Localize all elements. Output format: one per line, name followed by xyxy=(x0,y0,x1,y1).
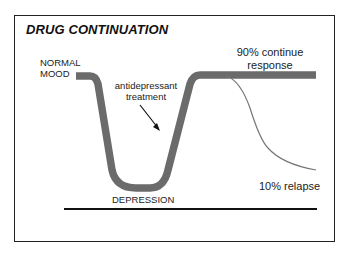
relapse-curve xyxy=(226,76,316,170)
diagram-graphics xyxy=(0,0,351,255)
mood-curve xyxy=(76,75,316,188)
treatment-arrow xyxy=(140,105,158,128)
arrow-head-icon xyxy=(153,123,160,131)
